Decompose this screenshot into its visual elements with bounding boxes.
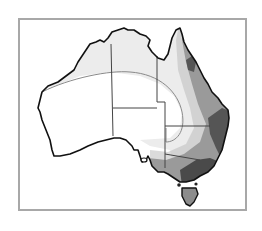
kangaroo-island bbox=[141, 158, 147, 162]
australia-map bbox=[0, 0, 262, 231]
island-dot-east bbox=[194, 182, 197, 185]
tasmania bbox=[182, 188, 198, 206]
island-dot-west bbox=[177, 183, 181, 187]
